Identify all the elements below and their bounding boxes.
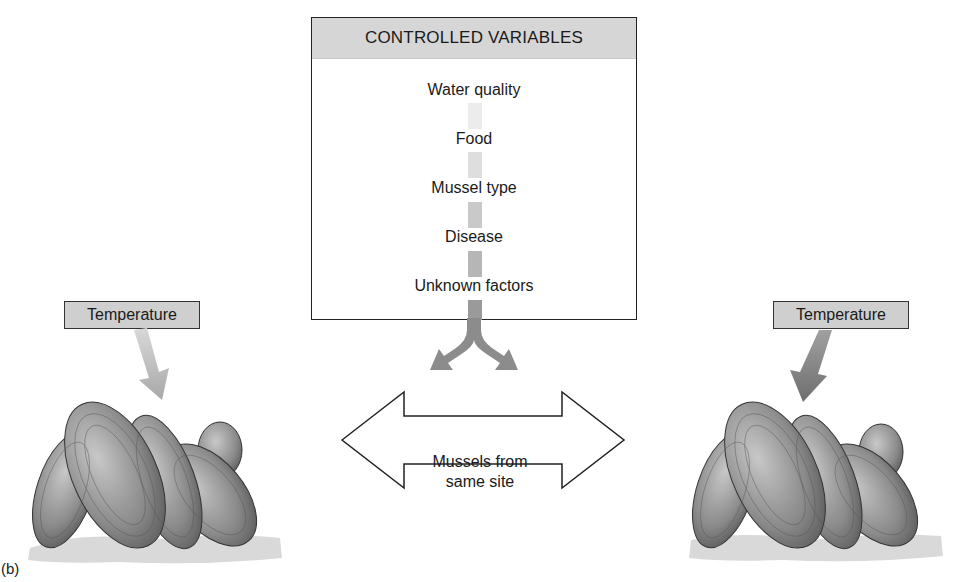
right-temperature-label: Temperature <box>773 301 909 329</box>
controlled-variable-water-quality: Water quality <box>312 81 636 99</box>
gradient-stem-segment <box>468 103 482 129</box>
center-arrow-line1: Mussels from <box>410 452 550 472</box>
controlled-variable-unknown-factors: Unknown factors <box>312 277 636 295</box>
center-arrow-label: Mussels from same site <box>410 452 550 492</box>
gradient-stem-segment <box>468 300 482 320</box>
left-mussel-cluster-illustration <box>20 390 290 570</box>
controlled-variable-disease: Disease <box>312 228 636 246</box>
gradient-stem-segment <box>468 202 482 228</box>
controlled-variables-box: CONTROLLED VARIABLES Water quality Food … <box>311 17 637 320</box>
left-temperature-label: Temperature <box>64 301 200 329</box>
controlled-variable-mussel-type: Mussel type <box>312 179 636 197</box>
gradient-stem-segment <box>468 251 482 277</box>
center-arrow-line2: same site <box>410 472 550 492</box>
controlled-variable-food: Food <box>312 130 636 148</box>
forked-arrow-icon <box>400 318 550 378</box>
right-mussel-cluster-illustration <box>683 390 953 570</box>
gradient-stem-segment <box>468 152 482 178</box>
controlled-variables-header: CONTROLLED VARIABLES <box>312 18 636 59</box>
panel-label: (b) <box>1 560 19 577</box>
